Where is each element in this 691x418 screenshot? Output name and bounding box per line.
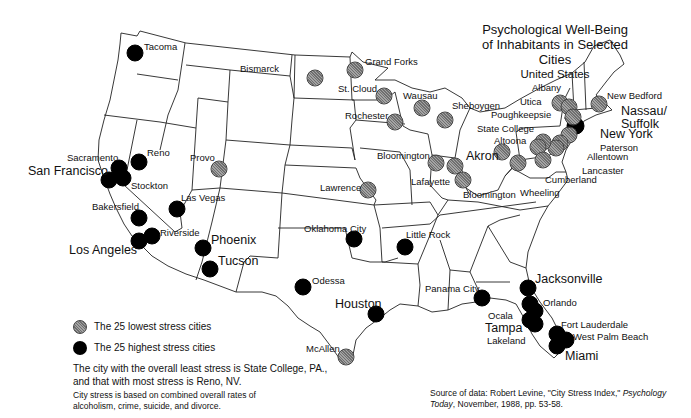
- low-stress-marker-icon: [338, 349, 355, 366]
- title-line-3: United States: [470, 67, 640, 82]
- city-label: Riverside: [160, 228, 200, 238]
- city-label: State College: [477, 124, 534, 134]
- low-stress-marker-icon: [376, 88, 393, 105]
- low-stress-swatch-icon: [73, 320, 87, 334]
- city-label: Grand Forks: [365, 57, 418, 67]
- city-label: Bloomington: [463, 190, 516, 200]
- city-label: Little Rock: [406, 230, 450, 240]
- summary-line-1: The city with the overall least stress i…: [73, 362, 333, 375]
- city-label: Phoenix: [211, 234, 256, 247]
- high-stress-marker-icon: [195, 240, 212, 257]
- legend-low-label: The 25 lowest stress cities: [94, 321, 211, 332]
- city-label: Nassau/Suffolk: [621, 105, 667, 131]
- city-label: Lakeland: [487, 336, 526, 346]
- high-stress-marker-icon: [131, 154, 148, 171]
- city-label: Oklahoma City: [304, 224, 366, 234]
- city-label: Sacramento: [67, 153, 118, 163]
- high-stress-marker-icon: [127, 45, 144, 62]
- source-citation: Source of data: Robert Levine, "City Str…: [430, 388, 690, 410]
- low-stress-marker-icon: [387, 114, 404, 131]
- legend-high-label: The 25 highest stress cities: [94, 342, 215, 353]
- summary-note: The city with the overall least stress i…: [73, 362, 333, 388]
- title-line-1: Psychological Well-Being: [470, 22, 640, 37]
- city-label: McAllen: [306, 344, 340, 354]
- city-label: Cumberland: [545, 175, 597, 185]
- city-label: Miami: [565, 350, 598, 363]
- low-stress-marker-icon: [360, 182, 377, 199]
- high-stress-marker-icon: [549, 338, 566, 355]
- high-stress-marker-icon: [169, 201, 186, 218]
- low-stress-marker-icon: [591, 96, 608, 113]
- city-label: Rochester: [345, 111, 388, 121]
- city-label: Wheeling: [520, 188, 560, 198]
- city-label: Orlando: [543, 298, 577, 308]
- high-stress-marker-icon: [520, 280, 537, 297]
- high-stress-marker-icon: [202, 261, 219, 278]
- source-prefix: Source of data: Robert Levine, "City Str…: [430, 388, 623, 398]
- city-label: Lawrence: [320, 183, 361, 193]
- city-label: Akron: [466, 150, 499, 163]
- city-label: Panama City: [425, 284, 479, 294]
- city-label: Albany: [532, 83, 561, 93]
- city-label: Fort Lauderdale: [561, 320, 628, 330]
- city-label: Lafayette: [411, 177, 450, 187]
- low-stress-marker-icon: [307, 70, 324, 87]
- high-stress-marker-icon: [397, 239, 414, 256]
- low-stress-marker-icon: [211, 161, 228, 178]
- low-stress-marker-icon: [455, 172, 472, 189]
- city-label: Bloomington: [377, 151, 430, 161]
- low-stress-marker-icon: [535, 152, 552, 169]
- city-label: Las Vegas: [181, 193, 225, 203]
- high-stress-marker-icon: [131, 210, 148, 227]
- title-line-2: of Inhabitants in Selected Cities: [470, 37, 640, 67]
- basis-note: City stress is based on combined overall…: [73, 390, 333, 412]
- high-stress-marker-icon: [527, 316, 544, 333]
- city-label: Los Angeles: [69, 244, 137, 257]
- low-stress-marker-icon: [565, 109, 582, 126]
- high-stress-swatch-icon: [73, 341, 87, 355]
- city-label: Allentown: [587, 152, 628, 162]
- city-label: Tacoma: [144, 42, 177, 52]
- city-label: Tucson: [218, 255, 259, 268]
- city-label: New Bedford: [607, 91, 662, 101]
- city-label: St. Cloud: [338, 84, 377, 94]
- city-label: Utica: [520, 97, 542, 107]
- city-label: Ocala: [488, 311, 513, 321]
- city-label: Houston: [335, 298, 382, 311]
- city-label: Tampa: [485, 322, 523, 335]
- low-stress-marker-icon: [347, 62, 364, 79]
- city-label: Stockton: [131, 181, 168, 191]
- map-title: Psychological Well-Being of Inhabitants …: [470, 22, 640, 82]
- city-label: Bismarck: [240, 64, 279, 74]
- high-stress-marker-icon: [295, 279, 312, 296]
- city-label: Provo: [190, 153, 215, 163]
- city-label: Bakersfield: [92, 202, 139, 212]
- city-label: Odessa: [312, 276, 345, 286]
- basis-line-2: alcoholism, crime, suicide, and divorce.: [73, 401, 333, 412]
- city-label: West Palm Beach: [573, 332, 648, 342]
- low-stress-marker-icon: [510, 155, 527, 172]
- source-suffix: , November, 1988, pp. 53-58.: [453, 399, 563, 409]
- high-stress-marker-icon: [115, 170, 132, 187]
- summary-line-2: and that with most stress is Reno, NV.: [73, 375, 333, 388]
- basis-line-1: City stress is based on combined overall…: [73, 390, 333, 401]
- city-label: Wausau: [403, 91, 438, 101]
- low-stress-marker-icon: [437, 112, 454, 129]
- city-label: Reno: [147, 148, 170, 158]
- city-label: Jacksonville: [535, 273, 602, 286]
- city-label: Poughkeepsie: [491, 110, 551, 120]
- low-stress-marker-icon: [414, 100, 431, 117]
- low-stress-marker-icon: [428, 155, 445, 172]
- city-label: San Francisco: [28, 165, 108, 178]
